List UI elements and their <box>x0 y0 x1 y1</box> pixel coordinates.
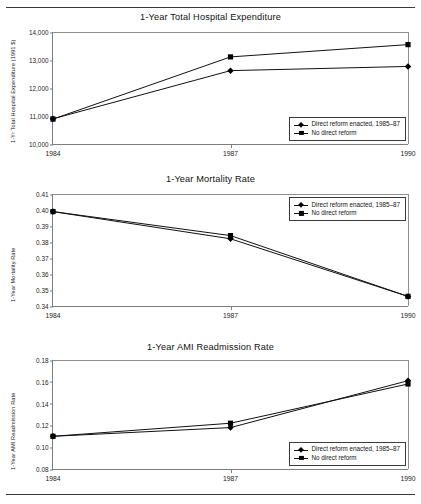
y-axis-tick-label: 0.36 <box>36 271 53 278</box>
y-axis-tick-label: 0.35 <box>36 287 53 294</box>
y-axis-tick-label: 10,000 <box>29 141 53 148</box>
chart-title: 1-Year Total Hospital Expenditure <box>0 12 421 22</box>
legend-item: No direct reform <box>294 454 400 463</box>
x-axis-tick-label: 1984 <box>45 475 60 482</box>
x-axis-tick-label: 1987 <box>223 312 238 319</box>
x-axis-tick-label: 1987 <box>223 475 238 482</box>
plot-area: 0.180.160.140.120.100.08198419871990Dire… <box>52 360 408 470</box>
legend-label: No direct reform <box>311 209 356 218</box>
data-point-square <box>405 42 410 47</box>
legend-item: Direct reform enacted, 1985–87 <box>294 201 400 210</box>
chart-title: 1-Year AMI Readmission Rate <box>0 342 421 352</box>
chart-legend: Direct reform enacted, 1985–87No direct … <box>289 442 406 466</box>
y-axis-tick-label: 0.14 <box>36 400 53 407</box>
y-axis-tick-label: 0.08 <box>36 466 53 473</box>
series-line <box>53 66 408 118</box>
legend-square-icon <box>294 454 308 462</box>
legend-label: Direct reform enacted, 1985–87 <box>311 201 400 210</box>
legend-diamond-icon <box>294 446 308 454</box>
legend-label: Direct reform enacted, 1985–87 <box>311 445 400 454</box>
series-line <box>53 212 408 297</box>
y-axis-tick-label: 11,000 <box>29 113 53 120</box>
y-axis-tick-label: 0.16 <box>36 378 53 385</box>
x-axis-tick-mark <box>231 469 232 473</box>
x-axis-tick-label: 1984 <box>45 312 60 319</box>
legend-diamond-icon <box>294 121 308 129</box>
legend-square-icon <box>294 129 308 137</box>
data-point-square <box>405 294 410 299</box>
y-axis-tick-label: 0.18 <box>36 357 53 364</box>
y-axis-tick-label: 13,000 <box>29 57 53 64</box>
chart-panel-ami-readmission-rate: 1-Year AMI Readmission Rate 1-Year AMI R… <box>0 340 421 495</box>
y-axis-tick-label: 0.37 <box>36 255 53 262</box>
legend-item: Direct reform enacted, 1985–87 <box>294 445 400 454</box>
y-axis-label: 1-Yr Total Hospital Expenditure (1991 $) <box>2 18 16 143</box>
top-divider-rule <box>6 7 415 8</box>
chart-legend: Direct reform enacted, 1985–87No direct … <box>289 197 406 221</box>
data-point-diamond <box>405 63 412 70</box>
plot-area: 0.410.400.390.380.370.360.350.3419841987… <box>52 194 408 307</box>
x-axis-tick-label: 1990 <box>400 475 415 482</box>
data-point-square <box>50 209 55 214</box>
legend-label: No direct reform <box>311 129 356 138</box>
legend-item: No direct reform <box>294 129 400 138</box>
data-point-square <box>50 116 55 121</box>
legend-label: Direct reform enacted, 1985–87 <box>311 120 400 129</box>
y-axis-tick-label: 0.34 <box>36 303 53 310</box>
chart-title: 1-Year Mortality Rate <box>0 174 421 184</box>
data-point-square <box>50 434 55 439</box>
y-axis-tick-label: 14,000 <box>29 29 53 36</box>
x-axis-tick-label: 1990 <box>400 150 415 157</box>
x-axis-tick-label: 1984 <box>45 150 60 157</box>
data-point-diamond <box>227 67 234 74</box>
chart-legend: Direct reform enacted, 1985–87No direct … <box>289 117 406 141</box>
chart-panel-hospital-expenditure: 1-Year Total Hospital Expenditure 1-Yr T… <box>0 10 421 168</box>
x-axis-tick-label: 1987 <box>223 150 238 157</box>
chart-panel-mortality-rate: 1-Year Mortality Rate 1-Year Mortality R… <box>0 172 421 332</box>
y-axis-tick-label: 0.38 <box>36 239 53 246</box>
data-point-square <box>228 233 233 238</box>
x-axis-tick-mark <box>231 306 232 310</box>
legend-label: No direct reform <box>311 454 356 463</box>
legend-square-icon <box>294 209 308 217</box>
data-point-square <box>228 54 233 59</box>
legend-item: No direct reform <box>294 209 400 218</box>
series-line <box>53 212 408 297</box>
y-axis-tick-label: 0.39 <box>36 223 53 230</box>
x-axis-tick-mark <box>231 144 232 148</box>
x-axis-tick-label: 1990 <box>400 312 415 319</box>
y-axis-tick-label: 0.10 <box>36 444 53 451</box>
plot-right-border <box>408 360 409 469</box>
y-axis-label: 1-Year Mortality Rate <box>2 192 16 302</box>
data-point-square <box>405 381 410 386</box>
y-axis-tick-label: 0.41 <box>36 191 53 198</box>
y-axis-tick-label: 0.12 <box>36 422 53 429</box>
y-axis-label: 1-Year AMI Readmission Rate <box>2 358 16 470</box>
legend-diamond-icon <box>294 201 308 209</box>
plot-right-border <box>408 32 409 144</box>
y-axis-tick-label: 12,000 <box>29 85 53 92</box>
plot-right-border <box>408 194 409 306</box>
legend-item: Direct reform enacted, 1985–87 <box>294 120 400 129</box>
figure-page: 1-Year Total Hospital Expenditure 1-Yr T… <box>0 0 421 504</box>
data-point-square <box>228 421 233 426</box>
plot-area: 14,00013,00012,00011,00010,0001984198719… <box>52 32 408 145</box>
